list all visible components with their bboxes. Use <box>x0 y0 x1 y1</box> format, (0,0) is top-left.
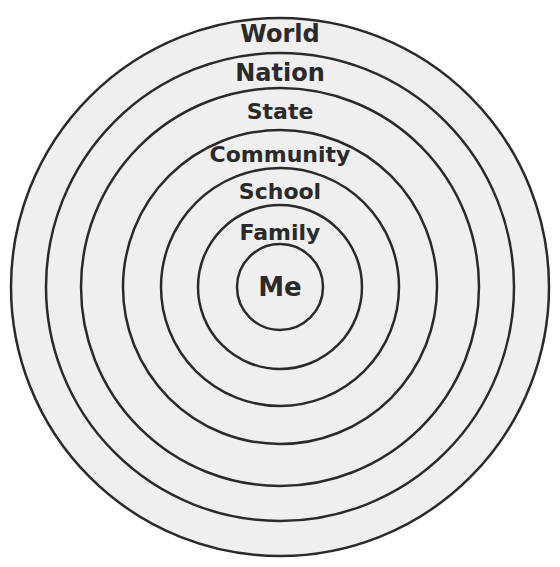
ring-label-state: State <box>247 99 314 124</box>
ring-label-world: World <box>240 20 319 48</box>
concentric-circle-diagram: WorldNationStateCommunitySchoolFamilyMe <box>0 0 560 567</box>
ring-label-me: Me <box>258 272 302 302</box>
ring-label-family: Family <box>240 220 321 245</box>
ring-label-nation: Nation <box>235 59 325 87</box>
ring-label-school: School <box>239 179 321 204</box>
ring-label-community: Community <box>210 142 351 167</box>
